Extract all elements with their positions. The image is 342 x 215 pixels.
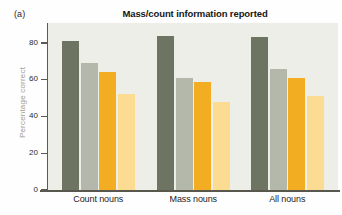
y-axis-tick: [41, 116, 48, 117]
bar-all-nouns-series-3: [288, 78, 305, 190]
y-axis-tick-label: 20: [12, 148, 38, 157]
bar-all-nouns-series-1: [251, 37, 268, 190]
bar-count-nouns-series-2: [81, 63, 98, 190]
y-axis-tick-label: 80: [12, 38, 38, 47]
bar-mass-nouns-series-1: [157, 36, 174, 190]
y-axis-label: Percentage correct: [18, 43, 27, 163]
y-axis-tick: [41, 153, 48, 154]
bar-count-nouns-series-4: [118, 94, 135, 190]
y-axis-tick-label: 60: [12, 74, 38, 83]
y-axis-tick: [41, 42, 48, 43]
bar-mass-nouns-series-2: [176, 78, 193, 190]
x-axis-label-all-nouns: All nouns: [242, 194, 332, 204]
bar-all-nouns-series-2: [270, 69, 287, 190]
y-axis-tick: [41, 79, 48, 80]
x-axis-label-mass-nouns: Mass nouns: [148, 194, 238, 204]
chart-title: Mass/count information reported: [50, 8, 340, 19]
bar-mass-nouns-series-4: [213, 102, 230, 190]
panel-label: (a): [14, 9, 25, 19]
y-axis-tick: [41, 189, 48, 190]
y-axis-tick-label: 0: [12, 185, 38, 194]
y-axis-tick-label: 40: [12, 111, 38, 120]
figure-panel-a: (a) Mass/count information reported Perc…: [0, 0, 342, 215]
bar-count-nouns-series-1: [62, 41, 79, 190]
bar-mass-nouns-series-3: [194, 82, 211, 190]
x-axis-spine: [40, 190, 340, 192]
bar-all-nouns-series-4: [307, 96, 324, 190]
y-axis-spine: [47, 23, 48, 191]
bar-count-nouns-series-3: [99, 72, 116, 190]
x-axis-label-count-nouns: Count nouns: [53, 194, 143, 204]
